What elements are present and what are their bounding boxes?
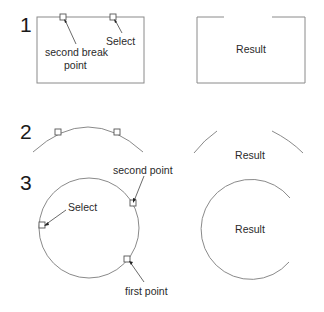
step-number-2: 2 xyxy=(20,120,32,143)
arc-result-left-segment xyxy=(194,131,217,153)
step-3: 3 Select second point first point Result xyxy=(20,164,290,297)
first-point-label: first point xyxy=(125,285,168,297)
result-label-1: Result xyxy=(236,43,266,55)
second-point-label: second point xyxy=(113,164,173,176)
arc-result-right-segment xyxy=(272,131,303,153)
second-break-point-leader xyxy=(65,20,76,44)
result-label-2: Result xyxy=(235,149,265,161)
circle-original xyxy=(39,178,139,278)
circle-select-marker xyxy=(39,222,45,228)
break-command-diagram: 1 second break point Select Result 2 Res… xyxy=(0,0,324,312)
arc-break-marker-1 xyxy=(55,129,61,135)
result-label-3: Result xyxy=(235,223,265,235)
second-break-point-label-line2: point xyxy=(64,59,87,71)
second-break-point-marker xyxy=(60,14,66,20)
step-2: 2 Result xyxy=(20,120,303,161)
select-label: Select xyxy=(106,35,135,47)
circle-select-label: Select xyxy=(68,201,97,213)
arc-break-marker-2 xyxy=(114,129,120,135)
step-number-1: 1 xyxy=(20,13,32,36)
step-1: 1 second break point Select Result xyxy=(20,13,305,83)
select-marker xyxy=(110,14,116,20)
first-point-leader xyxy=(130,262,144,282)
second-break-point-label-line1: second break xyxy=(45,46,109,58)
arc-original xyxy=(33,127,143,152)
second-point-leader xyxy=(134,176,144,201)
arrowhead-icon xyxy=(129,261,133,265)
step-number-3: 3 xyxy=(20,171,32,194)
